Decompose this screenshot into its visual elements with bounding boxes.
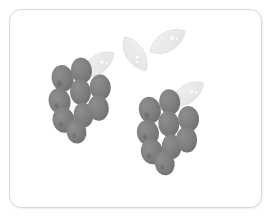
grapes-illustration-canvas: [10, 10, 261, 207]
leaf-upper-right-icon: [145, 24, 190, 60]
screenshot-stage: [0, 0, 273, 219]
rounded-card-frame: [9, 9, 262, 208]
grapes-vector-artwork: [10, 10, 261, 207]
leaf-upper-left-icon: [118, 32, 153, 75]
